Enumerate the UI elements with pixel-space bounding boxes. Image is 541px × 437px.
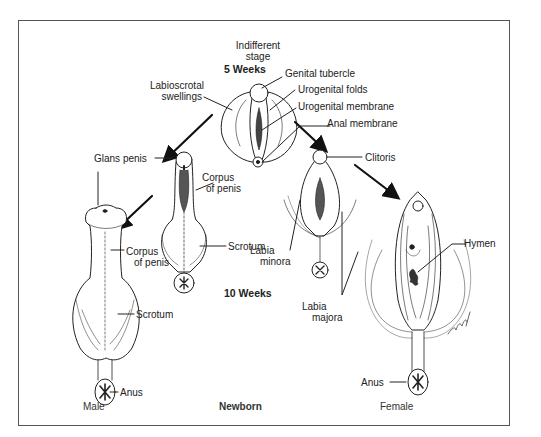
- corpus-10wk-line1: Corpus: [202, 172, 241, 183]
- label-glans-penis: Glans penis: [94, 153, 147, 164]
- corpus-10wk-line2: of penis: [202, 183, 241, 194]
- corpus-newborn-line2: of penis: [126, 257, 169, 268]
- female-newborn-drawing: [365, 192, 470, 395]
- label-genital-tubercle: Genital tubercle: [285, 68, 355, 79]
- label-urogenital-membrane: Urogenital membrane: [298, 101, 394, 112]
- labia-majora-line1: Labia: [302, 301, 343, 312]
- stage-age-10-weeks: 10 Weeks: [224, 288, 272, 299]
- artist-signature: [448, 312, 470, 334]
- label-labia-majora: Labia majora: [302, 301, 343, 323]
- labia-majora-line2: majora: [302, 312, 343, 323]
- indifferent-stage-title: Indifferent stage: [228, 40, 288, 62]
- label-corpus-of-penis-10wk: Corpus of penis: [202, 172, 241, 194]
- labia-minora-line2: minora: [250, 256, 291, 267]
- label-anus-female: Anus: [361, 377, 384, 388]
- label-anal-membrane: Anal membrane: [327, 118, 398, 129]
- label-labia-minora: Labia minora: [250, 245, 291, 267]
- male-newborn-drawing: [73, 172, 139, 405]
- labioscrotal-line2: swellings: [150, 91, 202, 102]
- caption-female: Female: [380, 401, 413, 412]
- label-anus-male: Anus: [120, 387, 143, 398]
- embryology-illustration: [0, 0, 541, 437]
- caption-male: Male: [83, 401, 105, 412]
- label-clitoris: Clitoris: [365, 152, 396, 163]
- female-10-weeks-drawing: [284, 150, 362, 295]
- label-urogenital-folds: Urogenital folds: [298, 84, 367, 95]
- indifferent-title-line1: Indifferent: [228, 40, 288, 51]
- labia-minora-line1: Labia: [250, 245, 291, 256]
- corpus-newborn-line1: Corpus: [126, 246, 169, 257]
- labioscrotal-line1: Labioscrotal: [150, 80, 202, 91]
- label-scrotum-newborn: Scrotum: [136, 309, 173, 320]
- label-labioscrotal-swellings: Labioscrotal swellings: [150, 80, 202, 102]
- indifferent-title-line2: stage: [228, 51, 288, 62]
- label-hymen: Hymen: [464, 238, 496, 249]
- label-corpus-of-penis-newborn: Corpus of penis: [126, 246, 169, 268]
- caption-newborn: Newborn: [219, 401, 262, 412]
- stage-age-5-weeks: 5 Weeks: [224, 64, 266, 75]
